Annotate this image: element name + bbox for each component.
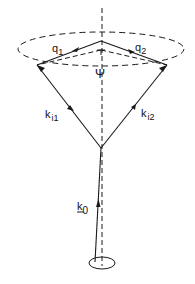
k0-arrow-icon [96, 199, 101, 207]
ki2-tip-arrow-icon [159, 65, 167, 72]
psi-chord-left [37, 50, 101, 65]
label-ki2: ki2 [141, 107, 155, 122]
label-ki1: ki1 [45, 108, 59, 123]
q2-vector [101, 41, 167, 65]
ki1-tip-arrow-icon [37, 65, 45, 72]
cone-vector-diagram: q1 q2 Ψ ki1 ki2 k0 [0, 0, 195, 284]
label-k0: k0 [77, 200, 89, 216]
cone-base-ellipse [18, 32, 184, 66]
label-psi: Ψ [95, 67, 105, 81]
q1-vector [37, 41, 101, 65]
label-q1: q1 [52, 42, 63, 57]
